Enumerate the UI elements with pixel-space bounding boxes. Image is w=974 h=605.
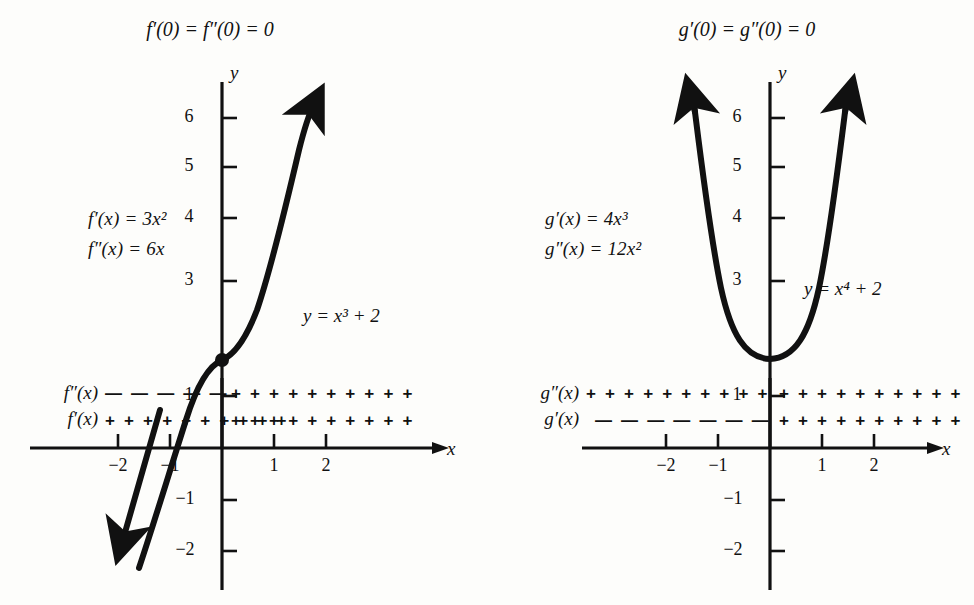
y-axis-label-quartic: y [778, 62, 786, 84]
y-tick-label-6-cubic: 6 [176, 106, 202, 127]
y-tick-label-3-cubic: 3 [176, 269, 202, 290]
quartic-left-arrow [691, 96, 695, 112]
cubic-plot-graphics [0, 0, 487, 605]
sign-line-label-g-first: g′(x) [501, 408, 579, 430]
y-tick-label-3-quartic: 3 [724, 269, 750, 290]
y-tick-label-neg1-quartic: −1 [716, 488, 750, 509]
sign-line-g-second-left: + + + + + + + + + + [586, 384, 770, 404]
sign-line-g-first-right: + + + + + + + + + + [779, 411, 963, 431]
quartic-right-arrow [845, 96, 849, 112]
y-ticks-quartic [770, 118, 785, 551]
y-tick-label-4-cubic: 4 [176, 206, 202, 227]
sign-line-f-second-left: — — — — — [105, 384, 229, 404]
y-tick-label-neg2-quartic: −2 [716, 539, 750, 560]
y-axis-label-cubic: y [230, 62, 238, 84]
y-ticks-cubic [222, 118, 237, 551]
x-tick-label-1-cubic: 1 [261, 455, 287, 476]
x-tick-label-neg1-cubic: −1 [153, 455, 187, 476]
sign-line-f-first-right: + + + + + + + + + + [231, 411, 415, 431]
cubic-curve [139, 104, 314, 568]
y-tick-label-5-quartic: 5 [724, 155, 750, 176]
y-tick-label-neg2-cubic: −2 [168, 539, 202, 560]
inflection-point-dot [215, 353, 229, 367]
panel-quartic: g′(0) = g″(0) = 0 g′(x) = 4x³ g″(x) = 12… [487, 0, 974, 605]
x-axis-label-cubic: x [447, 438, 455, 460]
sign-line-label-f-second: f″(x) [20, 382, 98, 404]
y-tick-label-5-cubic: 5 [176, 155, 202, 176]
y-tick-label-4-quartic: 4 [724, 206, 750, 227]
sign-line-f-second-right: + + + + + + + + + + [231, 384, 415, 404]
sign-line-g-first-left: — — — — — — — [595, 411, 771, 431]
sign-line-g-second-right: + + + + + + + + + + [779, 384, 963, 404]
x-tick-label-1-quartic: 1 [809, 455, 835, 476]
x-axis-label-quartic: x [942, 438, 950, 460]
x-tick-label-2-cubic: 2 [313, 455, 339, 476]
quartic-plot-graphics [487, 0, 974, 605]
x-tick-label-neg2-quartic: −2 [649, 455, 683, 476]
y-tick-label-6-quartic: 6 [724, 106, 750, 127]
calculus-figure: f′(0) = f″(0) = 0 f′(x) = 3x² f″(x) = 6x… [0, 0, 974, 605]
x-tick-label-2-quartic: 2 [861, 455, 887, 476]
y-tick-label-neg1-cubic: −1 [168, 488, 202, 509]
sign-line-label-f-first: f′(x) [20, 408, 98, 430]
sign-line-label-g-second: g″(x) [501, 382, 579, 404]
panel-cubic: f′(0) = f″(0) = 0 f′(x) = 3x² f″(x) = 6x… [0, 0, 487, 605]
x-tick-label-neg2-cubic: −2 [101, 455, 135, 476]
x-tick-label-neg1-quartic: −1 [701, 455, 735, 476]
